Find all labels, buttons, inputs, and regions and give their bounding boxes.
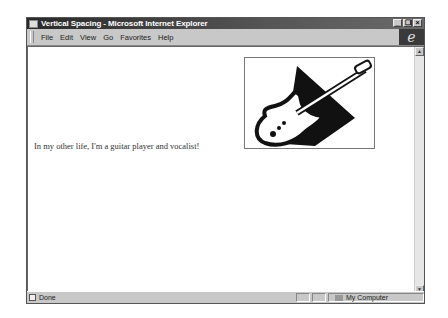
title-bar[interactable]: Vertical Spacing - Microsoft Internet Ex… (27, 18, 424, 29)
status-bar: Done My Computer (27, 291, 424, 303)
menu-view[interactable]: View (80, 33, 96, 42)
computer-icon (335, 295, 343, 301)
zone-label: My Computer (346, 294, 388, 301)
window-controls: _ ❐ × (393, 19, 422, 27)
status-pane-progress (296, 293, 310, 302)
status-pane-security (312, 293, 326, 302)
status-pane-zone: My Computer (328, 293, 424, 302)
window-title: Vertical Spacing - Microsoft Internet Ex… (41, 19, 208, 28)
page-status-icon (29, 294, 36, 301)
status-text: Done (39, 294, 56, 301)
guitar-icon (245, 58, 374, 148)
menu-help[interactable]: Help (158, 33, 173, 42)
browser-window: Vertical Spacing - Microsoft Internet Ex… (26, 17, 425, 304)
menu-edit[interactable]: Edit (60, 33, 73, 42)
toolbar-grip[interactable] (30, 31, 34, 43)
menu-favorites[interactable]: Favorites (120, 33, 151, 42)
close-button[interactable]: × (413, 19, 422, 27)
restore-button[interactable]: ❐ (403, 19, 412, 27)
body-text: In my other life, I'm a guitar player an… (34, 141, 199, 151)
scroll-up-button[interactable]: ▲ (415, 47, 424, 56)
status-panes: My Computer (294, 292, 424, 303)
vertical-scrollbar[interactable]: ▲ ▼ (414, 47, 424, 294)
menu-file[interactable]: File (41, 33, 53, 42)
guitar-image (244, 57, 375, 149)
menu-bar: File Edit View Go Favorites Help e (27, 29, 424, 46)
menu-go[interactable]: Go (103, 33, 113, 42)
ie-page-icon (29, 20, 38, 28)
page-content: In my other life, I'm a guitar player an… (27, 46, 424, 294)
minimize-button[interactable]: _ (393, 19, 402, 27)
ie-logo-icon: e (399, 29, 424, 45)
